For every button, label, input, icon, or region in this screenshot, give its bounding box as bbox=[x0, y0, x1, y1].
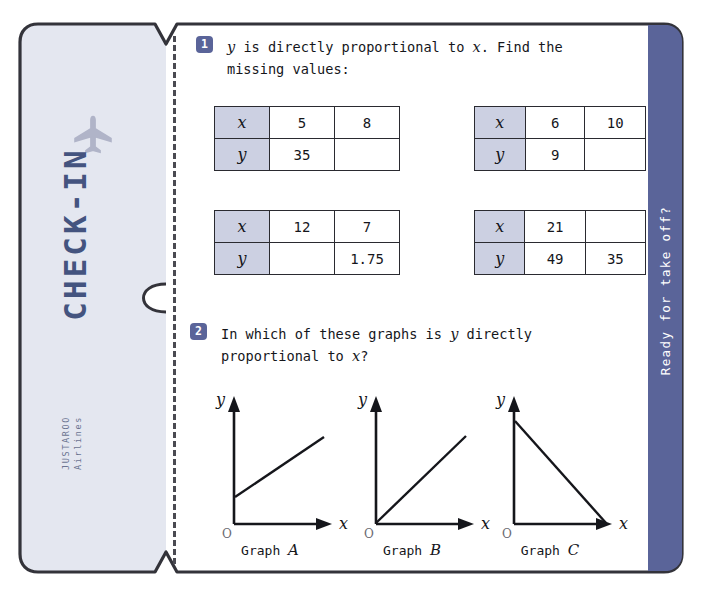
graph-b: y x O Graph B bbox=[344, 384, 496, 559]
airline-block: JUSTAROO Airlines bbox=[60, 383, 84, 503]
graph-b-caption-letter: B bbox=[430, 541, 441, 559]
table-d-y-1[interactable]: 35 bbox=[585, 243, 645, 275]
graph-b-caption: Graph B bbox=[344, 541, 480, 559]
boarding-pass-ticket: CHECK-IN JUSTAROO Airlines Ready for tak… bbox=[18, 22, 684, 574]
table-row: y 1.75 bbox=[215, 243, 400, 275]
table-a: x 5 8 y 35 bbox=[214, 106, 400, 171]
graph-b-caption-prefix: Graph bbox=[383, 543, 430, 558]
table-c-y-label: y bbox=[215, 243, 270, 275]
table-d: x 21 y 49 35 bbox=[474, 210, 646, 275]
q1-var-y: y bbox=[227, 39, 235, 55]
table-row: x 21 bbox=[475, 211, 646, 243]
q2-text-end: ? bbox=[360, 348, 368, 364]
table-b-y-label: y bbox=[475, 139, 526, 171]
table-row: y 49 35 bbox=[475, 243, 646, 275]
graph-a-caption-letter: A bbox=[288, 541, 299, 559]
graph-c-x-label: x bbox=[619, 514, 628, 533]
check-in-label: CHECK-IN bbox=[57, 69, 93, 399]
table-b-x-0[interactable]: 6 bbox=[525, 107, 585, 139]
table-a-x-label: x bbox=[215, 107, 270, 139]
question-1: 1 y is directly proportional to x. Find … bbox=[196, 36, 563, 80]
table-b-x-label: x bbox=[475, 107, 526, 139]
table-row: y 9 bbox=[475, 139, 646, 171]
table-c-y-0[interactable] bbox=[270, 243, 335, 275]
table-d-x-1[interactable] bbox=[585, 211, 645, 243]
graph-a-origin-label: O bbox=[222, 527, 232, 541]
table-c-x-0[interactable]: 12 bbox=[270, 211, 335, 243]
graph-b-y-label: y bbox=[358, 390, 367, 409]
table-b-y-1[interactable] bbox=[585, 139, 646, 171]
table-row: x 6 10 bbox=[475, 107, 646, 139]
q2-var-x: x bbox=[352, 348, 360, 364]
graph-a: y x O Graph A bbox=[202, 384, 354, 559]
airline-sub-label: Airlines bbox=[72, 383, 84, 503]
graph-c-caption: Graph C bbox=[482, 541, 618, 559]
question-2-number: 2 bbox=[190, 323, 207, 340]
takeoff-strip: Ready for take off? bbox=[648, 25, 682, 571]
question-1-text: y is directly proportional to x. Find th… bbox=[227, 36, 563, 80]
graph-a-caption-prefix: Graph bbox=[241, 543, 288, 558]
table-a-x-1[interactable]: 8 bbox=[335, 107, 400, 139]
graph-c-origin-label: O bbox=[502, 527, 512, 541]
table-a-y-label: y bbox=[215, 139, 270, 171]
table-d-y-0[interactable]: 49 bbox=[525, 243, 585, 275]
table-b-y-0[interactable]: 9 bbox=[525, 139, 585, 171]
worksheet-content: 1 y is directly proportional to x. Find … bbox=[186, 26, 646, 570]
graph-a-y-label: y bbox=[216, 390, 225, 409]
table-d-y-label: y bbox=[475, 243, 525, 275]
graph-b-origin-label: O bbox=[364, 527, 374, 541]
perforation-line bbox=[173, 36, 176, 564]
graph-c-y-label: y bbox=[496, 390, 505, 409]
graph-c-caption-letter: C bbox=[568, 541, 579, 559]
graph-a-caption: Graph A bbox=[202, 541, 338, 559]
table-row: y 35 bbox=[215, 139, 400, 171]
graph-c: y x O Graph C bbox=[482, 384, 634, 559]
table-d-x-label: x bbox=[475, 211, 525, 243]
table-b-x-1[interactable]: 10 bbox=[585, 107, 646, 139]
airline-name: JUSTAROO bbox=[60, 383, 72, 503]
question-2-text: In which of these graphs is y directly p… bbox=[221, 323, 532, 367]
table-c-x-1[interactable]: 7 bbox=[335, 211, 400, 243]
q1-var-x: x bbox=[473, 39, 481, 55]
graph-c-caption-prefix: Graph bbox=[521, 543, 568, 558]
takeoff-label: Ready for take off? bbox=[658, 146, 673, 436]
table-row: x 12 7 bbox=[215, 211, 400, 243]
question-2: 2 In which of these graphs is y directly… bbox=[190, 323, 532, 367]
ticket-stub: CHECK-IN JUSTAROO Airlines bbox=[22, 26, 174, 570]
table-a-y-1[interactable] bbox=[335, 139, 400, 171]
table-c-x-label: x bbox=[215, 211, 270, 243]
table-c: x 12 7 y 1.75 bbox=[214, 210, 400, 275]
table-b: x 6 10 y 9 bbox=[474, 106, 646, 171]
q2-text-start: In which of these graphs is bbox=[221, 326, 450, 342]
table-a-x-0[interactable]: 5 bbox=[270, 107, 335, 139]
table-c-y-1[interactable]: 1.75 bbox=[335, 243, 400, 275]
table-row: x 5 8 bbox=[215, 107, 400, 139]
table-a-y-0[interactable]: 35 bbox=[270, 139, 335, 171]
question-1-number: 1 bbox=[196, 36, 213, 53]
table-d-x-0[interactable]: 21 bbox=[525, 211, 585, 243]
q1-text-mid: is directly proportional to bbox=[235, 39, 472, 55]
